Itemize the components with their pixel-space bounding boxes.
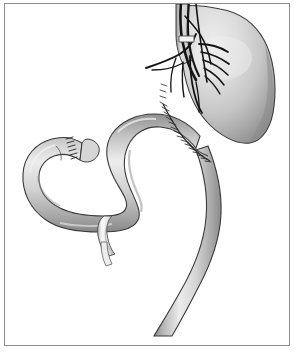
efferent-limb: [154, 146, 221, 336]
vagus-descending-branch-3: [171, 58, 176, 92]
bowel-loop: [23, 114, 200, 232]
cardia-staple-stitches: [160, 84, 167, 98]
surgical-illustration: [0, 0, 296, 353]
figure-root: Gastrojejunostomy with vagotomy and duod…: [0, 0, 296, 353]
nerve-clip-body: [179, 36, 194, 42]
bowel-loop-tube: [23, 114, 200, 232]
duodenal-stump-cap: [80, 139, 99, 162]
efferent-limb-tube: [154, 146, 221, 336]
nerve-ligature-clip: [179, 36, 194, 42]
